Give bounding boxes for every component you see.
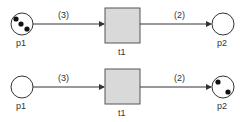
place-label: p2 [217,101,227,111]
transition-t1 [105,8,140,43]
arc-weight: (2) [174,10,185,20]
token [24,26,29,31]
place-p1 [11,76,33,98]
petri-net-diagram: p1 (3) t1 (2) p2 p1 (3) t1 (2) p2 [0,0,247,122]
place-p2 [212,13,234,35]
place-label: p1 [16,38,26,48]
transition-t1 [105,69,140,104]
place-label: p1 [16,101,26,111]
net-after: p1 (3) t1 (2) p2 [11,69,234,118]
place-p2 [212,76,234,98]
arc-weight: (3) [58,10,69,20]
arc-weight: (2) [174,73,185,83]
transition-label: t1 [118,47,126,57]
net-before: p1 (3) t1 (2) p2 [11,8,234,57]
arc-weight: (3) [58,73,69,83]
token [215,79,220,84]
place-label: p2 [217,38,227,48]
token [18,21,23,26]
token [225,89,230,94]
token [13,16,18,21]
transition-label: t1 [118,108,126,118]
